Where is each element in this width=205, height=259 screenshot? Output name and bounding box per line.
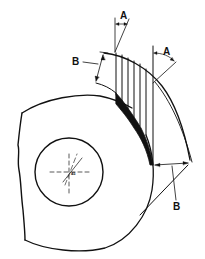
label-a-top: A [120,11,127,21]
disc-outer-arc [25,135,153,251]
dim-a-right-angled [153,62,176,83]
center-angle-line-2 [65,154,77,185]
label-a-right: A [163,47,170,57]
dim-b-left-leader [83,62,98,64]
b-inner-arc [96,83,116,93]
disc-broken-edge [18,113,25,240]
label-b-bottom: B [173,202,180,212]
label-center-mark: 45 [71,172,75,176]
center-angle-line-1 [63,158,82,182]
dim-b-left-ext-top [100,52,108,53]
disc-top-arc [22,95,132,113]
label-b-left: B [72,57,79,67]
diagram-canvas: A A B B 45 [0,0,205,259]
disc-drawing [0,0,205,259]
hatch-outer-arc-2 [155,82,192,162]
tangent-line [140,165,188,215]
dim-b-bottom-leader [172,166,176,200]
